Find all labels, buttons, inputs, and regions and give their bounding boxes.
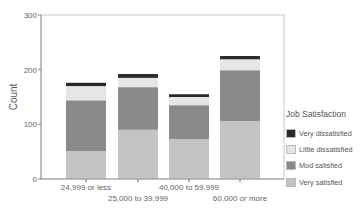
bar-segment-very-dissatisfied: [118, 74, 158, 78]
legend-items: Very dissatisfiedLittle dissatisfiedMod …: [286, 125, 363, 190]
y-tick-label: 0: [33, 175, 38, 184]
bar-stack: [66, 83, 106, 179]
bar-segment-mod-satisfied: [220, 70, 260, 121]
legend-item: Mod satisfied: [286, 158, 363, 174]
x-tick-label: 25,000 to 39,999: [108, 194, 169, 203]
bar-segment-little-dissatisfied: [66, 86, 106, 100]
legend-item: Very dissatisfied: [286, 125, 363, 141]
y-axis: 0100200300: [24, 11, 41, 184]
bar-segment-very-dissatisfied: [169, 94, 209, 97]
y-tick-label: 300: [24, 11, 38, 20]
y-tick-label: 200: [24, 66, 38, 75]
legend-title: Job Satisfaction: [286, 109, 363, 119]
bar-segment-very-satisfied: [169, 139, 209, 179]
y-axis-title: Count: [8, 83, 19, 110]
legend-label: Mod satisfied: [299, 161, 342, 170]
legend-item: Little dissatisfied: [286, 141, 363, 157]
legend: Job Satisfaction Very dissatisfiedLittle…: [286, 109, 363, 190]
bar-segment-little-dissatisfied: [169, 97, 209, 105]
legend-swatch: [286, 178, 296, 187]
bar-segment-very-satisfied: [220, 121, 260, 179]
bar-stack: [169, 94, 209, 179]
bar-segment-very-dissatisfied: [66, 83, 106, 86]
bar-segment-little-dissatisfied: [118, 78, 158, 87]
x-tick-label: 60,000 or more: [213, 194, 268, 203]
bar-segment-little-dissatisfied: [220, 59, 260, 70]
bar-segment-mod-satisfied: [66, 100, 106, 151]
y-tick-label: 100: [24, 120, 38, 129]
bar-segment-very-satisfied: [118, 130, 158, 179]
bar-segment-very-satisfied: [66, 151, 106, 179]
legend-swatch: [286, 161, 296, 170]
bars: [66, 56, 260, 179]
bar-segment-mod-satisfied: [118, 87, 158, 130]
legend-label: Very satisfied: [299, 178, 342, 187]
bar-stack: [220, 56, 260, 179]
x-axis: 24,999 or less25,000 to 39,99940,000 to …: [41, 179, 284, 203]
legend-swatch: [286, 129, 296, 138]
legend-swatch: [286, 145, 296, 154]
bar-segment-very-dissatisfied: [220, 56, 260, 59]
legend-item: Very satisfied: [286, 174, 363, 190]
bar-segment-mod-satisfied: [169, 105, 209, 139]
bar-stack: [118, 74, 158, 179]
legend-label: Little dissatisfied: [299, 145, 353, 154]
legend-label: Very dissatisfied: [299, 129, 352, 138]
x-tick-label: 40,000 to 59,999: [159, 183, 220, 192]
x-tick-label: 24,999 or less: [61, 183, 111, 192]
